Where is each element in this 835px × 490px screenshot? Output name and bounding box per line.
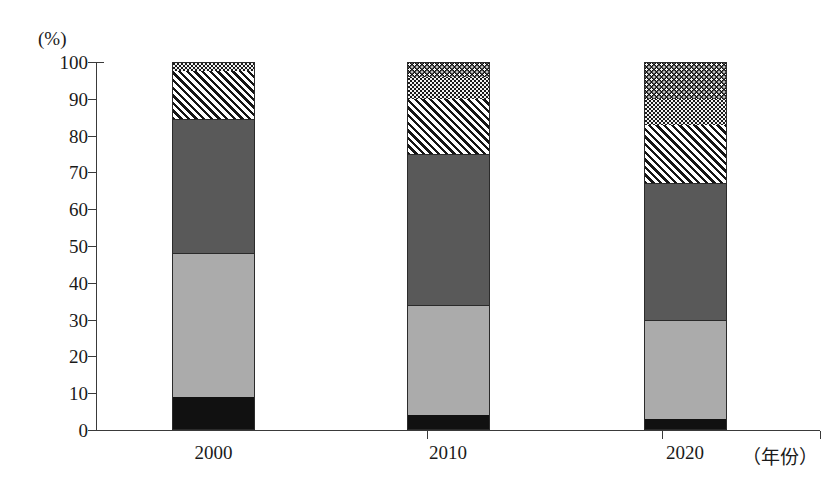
- bar-2000[interactable]: [172, 62, 255, 430]
- y-tick-40: [88, 283, 96, 284]
- bar-segment-2000-segment-1-black[interactable]: [172, 397, 255, 430]
- bar-segment-2020-segment-3-dark-gray[interactable]: [644, 183, 727, 319]
- x-axis-title: （年份）: [742, 442, 818, 469]
- y-tick-90: [88, 99, 96, 100]
- y-tick-30: [88, 320, 96, 321]
- bar-segment-2010-segment-6-dark-dots[interactable]: [407, 62, 490, 77]
- stacked-bar-chart: (%) 1009080706050403020100 200020102020 …: [0, 0, 835, 490]
- y-tick-label-90: 90: [69, 89, 88, 108]
- plot-area: [96, 62, 820, 430]
- bar-2010[interactable]: [407, 62, 490, 430]
- bar-segment-2000-segment-5-light-dots[interactable]: [172, 62, 255, 71]
- bar-segment-2010-segment-5-light-dots[interactable]: [407, 77, 490, 99]
- bar-segment-2010-segment-2-light-gray[interactable]: [407, 305, 490, 415]
- bar-segment-2000-segment-2-light-gray[interactable]: [172, 253, 255, 397]
- y-axis-line: [96, 62, 97, 430]
- x-tick-0: [427, 431, 428, 439]
- bar-segment-2010-segment-3-dark-gray[interactable]: [407, 154, 490, 305]
- x-tick-1: [662, 431, 663, 439]
- bar-segment-2010-segment-1-black[interactable]: [407, 415, 490, 430]
- y-tick-label-30: 30: [69, 310, 88, 329]
- y-tick-label-70: 70: [69, 163, 88, 182]
- bar-segment-2020-segment-2-light-gray[interactable]: [644, 320, 727, 419]
- y-tick-label-50: 50: [69, 237, 88, 256]
- bar-segment-2000-segment-4-hatch[interactable]: [172, 71, 255, 119]
- y-tick-20: [88, 356, 96, 357]
- y-axis-unit-label: (%): [38, 28, 66, 50]
- y-axis-top-cap: [96, 62, 104, 63]
- y-tick-label-80: 80: [69, 126, 88, 145]
- bar-2020[interactable]: [644, 62, 727, 430]
- y-tick-80: [88, 136, 96, 137]
- y-tick-60: [88, 209, 96, 210]
- y-tick-label-40: 40: [69, 273, 88, 292]
- bar-segment-2020-segment-4-hatch[interactable]: [644, 125, 727, 184]
- y-axis-tick-labels: 1009080706050403020100: [40, 62, 88, 430]
- x-tick-2: [820, 431, 821, 439]
- bar-segment-2000-segment-3-dark-gray[interactable]: [172, 119, 255, 253]
- x-axis-line: [96, 430, 820, 431]
- y-tick-label-20: 20: [69, 347, 88, 366]
- y-tick-label-100: 100: [60, 53, 89, 72]
- bar-segment-2010-segment-4-hatch[interactable]: [407, 99, 490, 154]
- y-tick-0: [88, 430, 96, 431]
- y-tick-100: [88, 62, 96, 63]
- x-label-2020: 2020: [666, 442, 704, 464]
- x-label-2000: 2000: [195, 442, 233, 464]
- y-tick-label-0: 0: [79, 421, 89, 440]
- bar-segment-2020-segment-6-dark-dots[interactable]: [644, 62, 727, 99]
- y-tick-10: [88, 393, 96, 394]
- bar-segment-2020-segment-5-light-dots[interactable]: [644, 99, 727, 125]
- y-tick-70: [88, 172, 96, 173]
- x-label-2010: 2010: [429, 442, 467, 464]
- bar-segment-2020-segment-1-black[interactable]: [644, 419, 727, 430]
- y-tick-label-60: 60: [69, 200, 88, 219]
- y-tick-50: [88, 246, 96, 247]
- y-tick-label-10: 10: [69, 384, 88, 403]
